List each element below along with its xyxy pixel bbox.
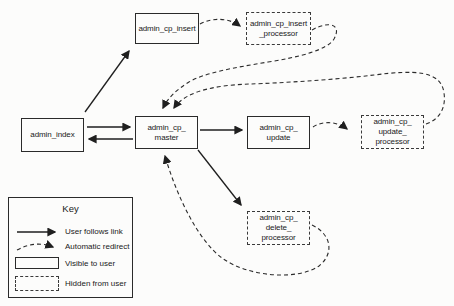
key-item-label: User follows link	[65, 227, 123, 236]
node-label: update_	[378, 127, 406, 137]
node-admin-cp-update: admin_cp_ update	[247, 116, 310, 149]
diagram-canvas: admin_index admin_cp_insert admin_cp_ins…	[0, 0, 454, 306]
key-item-label: Hidden from user	[65, 279, 126, 288]
visible-box-swatch	[15, 257, 59, 269]
node-label: processor	[261, 233, 295, 243]
key-item-label: Automatic redirect	[65, 242, 129, 251]
node-label: update	[267, 133, 291, 143]
edge-index-to-insert	[85, 51, 129, 112]
solid-arrow-icon	[15, 226, 61, 238]
node-admin-cp-update-processor: admin_cp_ update_ processor	[361, 115, 424, 149]
key-title: Key	[9, 203, 132, 214]
node-admin-cp-master: admin_cp_ master	[135, 116, 198, 149]
node-label: delete_	[266, 223, 292, 233]
node-label: admin_cp_insert	[250, 19, 307, 29]
edge-insert-to-insert-processor	[200, 19, 240, 26]
dashed-arrow-icon	[15, 239, 61, 253]
edge-master-to-delete-processor	[198, 150, 241, 205]
hidden-box-swatch	[15, 276, 59, 291]
node-admin-index: admin_index	[21, 118, 84, 152]
key-item-label: Visible to user	[65, 259, 115, 268]
node-label: admin_cp_insert	[138, 24, 195, 34]
node-label: admin_cp_	[147, 123, 185, 133]
key-legend: Key User follows link Automatic redirect…	[8, 197, 133, 298]
node-label: processor	[375, 137, 409, 147]
node-label: admin_cp_	[259, 213, 297, 223]
node-label: admin_index	[30, 130, 74, 140]
node-admin-cp-insert-processor: admin_cp_insert _processor	[246, 12, 311, 45]
edge-update-to-update-processor	[313, 123, 347, 129]
node-admin-cp-delete-processor: admin_cp_ delete_ processor	[247, 211, 310, 245]
node-label: master	[155, 133, 179, 143]
node-label: _processor	[259, 29, 298, 39]
node-admin-cp-insert: admin_cp_insert	[135, 13, 199, 44]
node-label: admin_cp_	[259, 123, 297, 133]
node-label: admin_cp_	[373, 117, 411, 127]
